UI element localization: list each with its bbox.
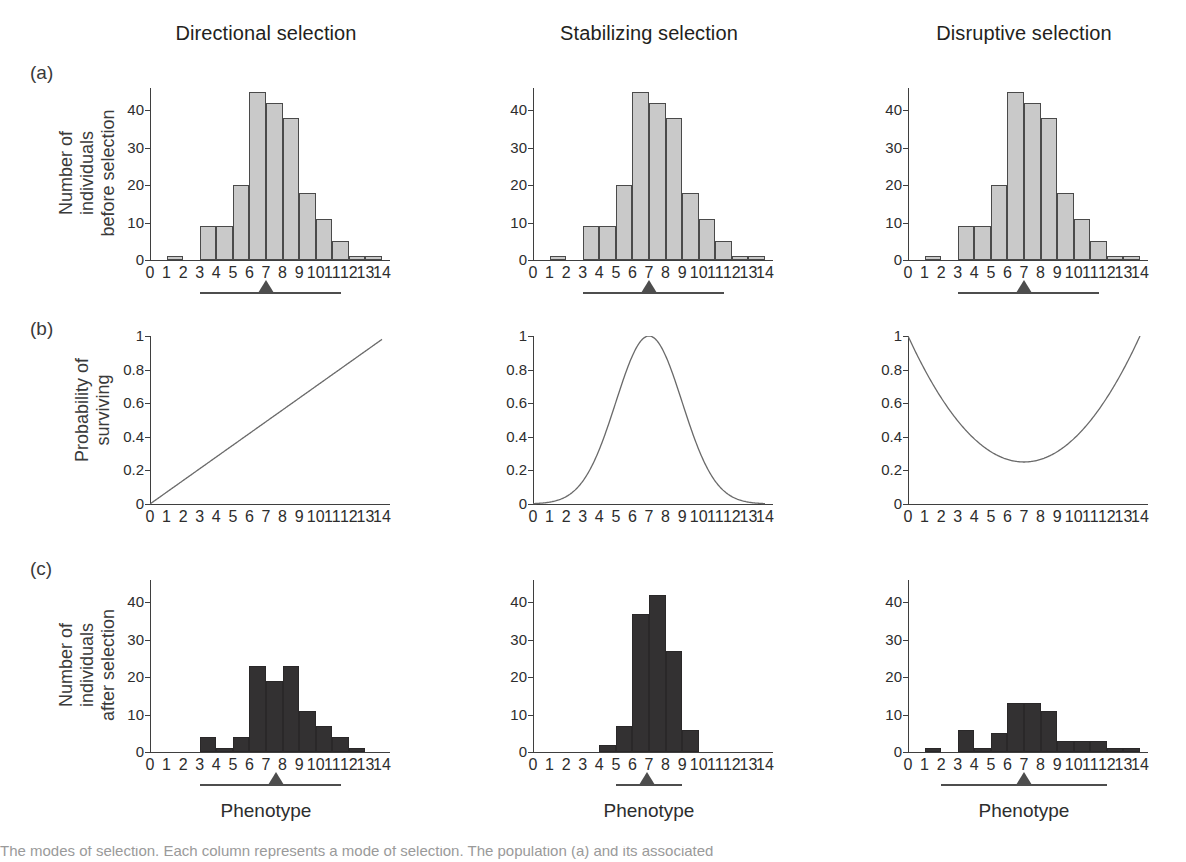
- histogram-bar: [632, 92, 649, 260]
- histogram-bar: [1007, 92, 1024, 260]
- y-tick: [145, 260, 150, 261]
- y-tick-label: 0.6: [96, 394, 144, 411]
- y-tick-label: 30: [854, 139, 902, 156]
- y-tick-label: 1: [479, 327, 527, 344]
- x-tick-label: 14: [1128, 508, 1152, 526]
- y-tick: [145, 602, 150, 603]
- y-tick: [903, 148, 908, 149]
- probability-curve: [150, 336, 392, 506]
- y-tick-label: 30: [479, 631, 527, 648]
- y-axis-title-line: individuals: [77, 560, 98, 770]
- y-tick-label: 1: [96, 327, 144, 344]
- y-tick-label: 20: [854, 176, 902, 193]
- histogram-bar: [266, 103, 283, 260]
- y-tick: [528, 677, 533, 678]
- histogram-bar: [599, 745, 616, 752]
- y-tick-label: 0: [479, 495, 527, 512]
- y-tick-label: 0: [854, 251, 902, 268]
- histogram-bar: [649, 103, 666, 260]
- y-tick-label: 20: [479, 668, 527, 685]
- y-axis-title-line: after selection: [98, 560, 119, 770]
- histogram-bar: [1057, 741, 1074, 752]
- chart-panel-b-disruptive: 00.20.40.60.8101234567891011121314: [908, 336, 1186, 594]
- y-tick-label: 0: [96, 743, 144, 760]
- histogram-bar: [1041, 711, 1058, 752]
- y-axis-line: [533, 580, 534, 753]
- histogram-bar: [266, 681, 283, 752]
- y-tick-label: 30: [479, 139, 527, 156]
- y-tick: [145, 185, 150, 186]
- y-tick-label: 40: [479, 101, 527, 118]
- histogram-bar: [925, 256, 942, 260]
- column-title-disruptive: Disruptive selection: [848, 22, 1186, 45]
- histogram-bar: [699, 219, 716, 260]
- y-tick-label: 20: [96, 176, 144, 193]
- y-tick-label: 40: [96, 593, 144, 610]
- histogram-bar: [349, 256, 366, 260]
- y-tick-label: 0.4: [479, 428, 527, 445]
- y-tick-label: 40: [854, 593, 902, 610]
- y-tick-label: 10: [854, 214, 902, 231]
- mean-marker-triangle: [1016, 280, 1032, 293]
- histogram-bar: [925, 748, 942, 752]
- y-tick-label: 0: [854, 495, 902, 512]
- histogram-bar: [332, 737, 349, 752]
- histogram-bar: [365, 256, 382, 260]
- y-axis-title-line: Probability of: [72, 305, 93, 515]
- y-tick-label: 40: [96, 101, 144, 118]
- histogram-bar: [666, 118, 683, 260]
- histogram-bar: [958, 730, 975, 752]
- probability-curve: [908, 336, 1150, 506]
- histogram-bar: [1107, 256, 1124, 260]
- chart-panel-a-directional: 01020304001234567891011121314: [150, 88, 452, 350]
- histogram-bar: [1123, 748, 1140, 752]
- histogram-bar: [283, 666, 300, 752]
- x-axis-title-stabilizing: Phenotype: [493, 800, 805, 822]
- y-tick-label: 40: [479, 593, 527, 610]
- mean-marker-triangle: [1016, 772, 1032, 785]
- y-tick-label: 10: [96, 706, 144, 723]
- x-axis-line: [908, 260, 1148, 261]
- histogram-bar: [200, 737, 217, 752]
- y-tick-label: 10: [479, 706, 527, 723]
- x-tick-label: 14: [1128, 264, 1152, 282]
- histogram-bar: [1041, 118, 1058, 260]
- histogram-bar: [216, 748, 233, 752]
- x-tick-label: 14: [370, 264, 394, 282]
- y-tick: [903, 752, 908, 753]
- y-tick: [903, 110, 908, 111]
- histogram-bar: [632, 614, 649, 752]
- histogram-bar: [616, 185, 633, 260]
- histogram-bar: [958, 226, 975, 260]
- y-tick-label: 20: [854, 668, 902, 685]
- histogram-bar: [583, 226, 600, 260]
- histogram-bar: [715, 241, 732, 260]
- histogram-bar: [299, 193, 316, 260]
- y-tick-label: 0: [479, 251, 527, 268]
- y-tick: [145, 148, 150, 149]
- histogram-bar: [1024, 703, 1041, 752]
- histogram-bar: [283, 118, 300, 260]
- y-tick-label: 20: [96, 668, 144, 685]
- histogram-bar: [316, 219, 333, 260]
- y-axis-title-row-a: Number ofindividualsbefore selection: [56, 68, 120, 278]
- histogram-bar: [974, 226, 991, 260]
- x-axis-line: [150, 260, 390, 261]
- y-axis-title-row-c: Number ofindividualsafter selection: [56, 560, 120, 770]
- histogram-bar: [249, 666, 266, 752]
- y-tick: [903, 185, 908, 186]
- y-tick-label: 30: [854, 631, 902, 648]
- mean-marker-triangle: [639, 772, 655, 785]
- y-tick-label: 0: [96, 495, 144, 512]
- histogram-bar: [599, 226, 616, 260]
- y-tick: [145, 677, 150, 678]
- y-tick-label: 1: [854, 327, 902, 344]
- y-tick: [145, 110, 150, 111]
- y-axis-title-line: Number of: [56, 560, 77, 770]
- y-tick: [145, 752, 150, 753]
- y-axis-line: [908, 88, 909, 261]
- y-tick-label: 0.8: [479, 361, 527, 378]
- y-tick-label: 0.2: [96, 461, 144, 478]
- y-axis-line: [533, 88, 534, 261]
- histogram-bar: [666, 651, 683, 752]
